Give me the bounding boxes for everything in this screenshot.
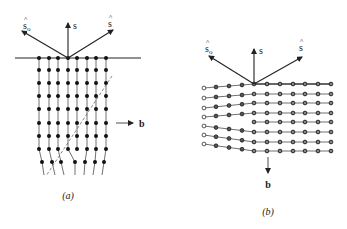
vector-s_o-arrow-icon xyxy=(22,31,68,58)
atom xyxy=(202,133,206,137)
vector-s_hat-arrow-icon xyxy=(68,30,113,58)
atom xyxy=(66,121,70,125)
atom xyxy=(240,138,244,142)
atom xyxy=(202,106,206,110)
atom xyxy=(214,135,218,139)
atom xyxy=(202,124,206,128)
atom xyxy=(214,95,218,99)
atom xyxy=(47,56,51,60)
atom xyxy=(85,121,89,125)
atom xyxy=(240,147,244,151)
atom xyxy=(75,121,79,125)
atom xyxy=(94,147,98,151)
atom xyxy=(227,137,231,141)
dislocation-figure: so^ss^ b (a) so^ss^ b (b) xyxy=(0,0,347,229)
atom xyxy=(240,129,244,133)
atom xyxy=(75,94,79,98)
panel-b-edge-dislocation: so^ss^ b (b) xyxy=(202,37,333,218)
atom xyxy=(240,112,244,116)
burgers-vector-label: b xyxy=(265,179,271,190)
atom xyxy=(202,115,206,119)
atom xyxy=(75,147,79,151)
atom xyxy=(75,134,79,138)
atom xyxy=(214,126,218,130)
hat-accent: ^ xyxy=(24,15,28,23)
atom xyxy=(56,68,60,72)
atom xyxy=(56,121,60,125)
vector-s_hat-arrow-icon xyxy=(254,57,302,84)
atom xyxy=(37,147,41,151)
atom xyxy=(47,68,51,72)
atom xyxy=(47,107,51,111)
atom xyxy=(202,86,206,90)
atom xyxy=(214,144,218,148)
atom xyxy=(240,102,244,106)
atom xyxy=(83,160,87,164)
atom xyxy=(85,94,89,98)
hat-accent: ^ xyxy=(109,13,113,21)
atom xyxy=(202,96,206,100)
vector-s_o-arrow-icon xyxy=(209,56,254,84)
atom xyxy=(37,56,41,60)
atom xyxy=(37,107,41,111)
panel-caption-b: (b) xyxy=(262,206,274,218)
panel-a-edge-dislocation: so^ss^ b (a) xyxy=(15,13,145,202)
atom xyxy=(47,121,51,125)
atom xyxy=(56,107,60,111)
atom xyxy=(66,107,70,111)
atom xyxy=(104,94,108,98)
atom xyxy=(66,68,70,72)
panel-caption-a: (a) xyxy=(62,190,74,202)
atom xyxy=(85,147,89,151)
atom xyxy=(227,104,231,108)
atom xyxy=(94,56,98,60)
atom xyxy=(56,94,60,98)
atom xyxy=(214,114,218,118)
scattering-vectors: so^ss^ xyxy=(205,37,304,84)
burgers-vector-label: b xyxy=(139,118,145,129)
atom xyxy=(40,160,44,164)
atom xyxy=(56,147,60,151)
atom xyxy=(104,121,108,125)
atom xyxy=(37,68,41,72)
atom xyxy=(75,81,79,85)
atom xyxy=(75,107,79,111)
atom xyxy=(227,84,231,88)
atom xyxy=(75,56,79,60)
atom xyxy=(227,113,231,117)
atom xyxy=(47,94,51,98)
atom xyxy=(85,107,89,111)
atom xyxy=(240,93,244,97)
atom xyxy=(94,94,98,98)
atom xyxy=(85,56,89,60)
atom xyxy=(94,134,98,138)
atom xyxy=(94,107,98,111)
atom xyxy=(227,127,231,131)
vector-s-label: s xyxy=(259,45,263,56)
atom xyxy=(102,160,106,164)
atom xyxy=(94,68,98,72)
atom xyxy=(59,160,63,164)
atom xyxy=(85,134,89,138)
atom xyxy=(47,134,51,138)
atom xyxy=(104,107,108,111)
atom xyxy=(47,81,51,85)
atom xyxy=(227,94,231,98)
atom xyxy=(94,121,98,125)
atom xyxy=(202,142,206,146)
atom-lattice xyxy=(37,56,108,175)
atom xyxy=(240,83,244,87)
atom xyxy=(56,134,60,138)
atom xyxy=(85,81,89,85)
atom xyxy=(214,85,218,89)
atom xyxy=(73,160,77,164)
atom xyxy=(37,121,41,125)
atom xyxy=(104,147,108,151)
slip-plane-dashed-line xyxy=(46,76,112,176)
atom xyxy=(37,81,41,85)
atom xyxy=(50,160,54,164)
atom xyxy=(56,81,60,85)
atom xyxy=(94,81,98,85)
atom xyxy=(104,134,108,138)
atom xyxy=(93,160,97,164)
